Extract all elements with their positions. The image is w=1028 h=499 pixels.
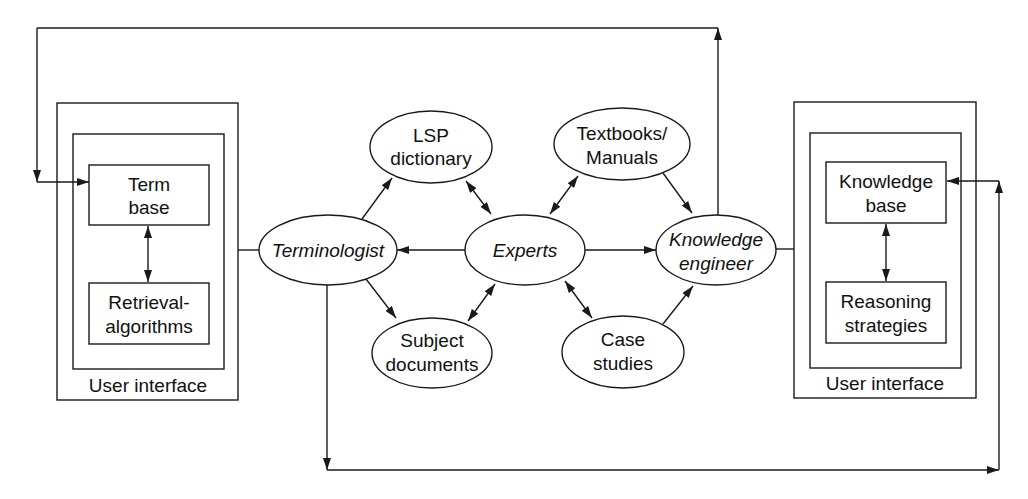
lsp-experts-arrow (466, 181, 491, 214)
retrieval-line2: algorithms (105, 316, 193, 337)
retrieval-algorithms-box: Retrieval- algorithms (89, 283, 209, 344)
node-knowledge-engineer: Knowledge engineer (656, 215, 776, 285)
node-textbooks-manuals: Textbooks/ Manuals (554, 108, 690, 180)
experts-label: Experts (493, 240, 558, 261)
ke-line1: Knowledge (669, 229, 763, 250)
term-base-line1: Term (128, 174, 170, 195)
lsp-line1: LSP (413, 125, 449, 146)
knowledge-base-box: Knowledge base (826, 162, 946, 223)
term-base-line2: base (128, 197, 169, 218)
right-user-interface-frame: User interface (794, 102, 976, 398)
terminologist-label: Terminologist (272, 240, 385, 261)
textbooks-experts-arrow (550, 176, 578, 214)
ke-line2: engineer (679, 253, 754, 274)
case-to-ke-arrow (663, 286, 693, 324)
left-user-interface-label: User interface (89, 375, 207, 396)
node-lsp-dictionary: LSP dictionary (370, 111, 492, 183)
reasoning-line1: Reasoning (841, 291, 932, 312)
textbooks-line2: Manuals (586, 147, 658, 168)
knowledge-flow-diagram: User interface Term base Retrieval- algo… (0, 0, 1028, 499)
subject-line2: documents (386, 354, 479, 375)
node-experts: Experts (465, 215, 585, 285)
case-line2: studies (593, 353, 653, 374)
lsp-line2: dictionary (390, 148, 472, 169)
case-line1: Case (601, 329, 645, 350)
reasoning-line2: strategies (845, 315, 927, 336)
knowledge-base-line1: Knowledge (839, 171, 933, 192)
subject-line1: Subject (400, 330, 464, 351)
textbooks-to-ke-arrow (663, 173, 692, 213)
textbooks-line1: Textbooks/ (577, 123, 669, 144)
experts-case-arrow (565, 281, 592, 318)
terminologist-to-lsp-arrow (362, 178, 392, 219)
node-case-studies: Case studies (562, 316, 684, 388)
node-terminologist: Terminologist (259, 215, 397, 285)
term-base-box: Term base (89, 165, 209, 225)
retrieval-line1: Retrieval- (108, 292, 189, 313)
terminologist-to-subject-arrow (366, 279, 396, 318)
reasoning-strategies-box: Reasoning strategies (826, 282, 946, 343)
right-user-interface-label: User interface (826, 373, 944, 394)
knowledge-base-line2: base (865, 195, 906, 216)
node-subject-documents: Subject documents (372, 318, 492, 388)
experts-subject-arrow (468, 284, 495, 321)
